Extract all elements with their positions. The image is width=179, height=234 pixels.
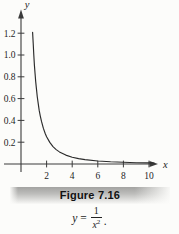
y-tick-label: 0.8 bbox=[4, 72, 16, 82]
equation-period: . bbox=[104, 215, 107, 227]
equation-lhs: y bbox=[72, 212, 77, 224]
equation-fraction: 1 x2 bbox=[91, 205, 102, 230]
curve-y-equals-1-over-x-squared bbox=[33, 32, 155, 163]
equation-denominator: x2 bbox=[92, 218, 100, 230]
x-axis-label: x bbox=[162, 159, 168, 170]
y-tick-label: 0.4 bbox=[4, 116, 16, 126]
equation-denominator-exponent: 2 bbox=[97, 218, 101, 226]
x-tick-label: 6 bbox=[95, 171, 100, 181]
y-tick-label: 1.2 bbox=[4, 29, 16, 39]
y-axis-label: y bbox=[24, 0, 30, 10]
x-tick-label: 8 bbox=[121, 171, 126, 181]
y-tick-label: 0.6 bbox=[4, 94, 16, 104]
textbook-figure-page: 2468100.20.40.60.81.01.2xy Figure 7.16 y… bbox=[0, 0, 179, 234]
chart-area: 2468100.20.40.60.81.01.2xy bbox=[0, 0, 179, 186]
x-axis-arrow-icon bbox=[150, 161, 159, 167]
y-tick-label: 1.0 bbox=[4, 50, 16, 60]
equation: y = 1 x2 . bbox=[0, 205, 179, 230]
x-tick-label: 4 bbox=[70, 171, 75, 181]
y-tick-label: 0.2 bbox=[4, 138, 16, 148]
x-tick-label: 2 bbox=[44, 171, 49, 181]
equation-numerator: 1 bbox=[91, 205, 102, 218]
y-axis-arrow-icon bbox=[18, 10, 24, 19]
figure-caption-bar: Figure 7.16 bbox=[10, 187, 170, 204]
function-plot: 2468100.20.40.60.81.01.2xy bbox=[0, 0, 179, 186]
figure-caption: Figure 7.16 bbox=[60, 190, 120, 202]
x-tick-label: 10 bbox=[144, 171, 154, 181]
equation-equals: = bbox=[80, 212, 87, 224]
